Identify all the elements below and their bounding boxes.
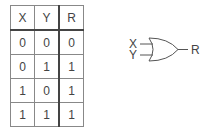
gate-output-r-label: R (191, 43, 200, 57)
gate-input-y-label: Y (129, 48, 137, 62)
or-gate-icon (0, 0, 212, 132)
